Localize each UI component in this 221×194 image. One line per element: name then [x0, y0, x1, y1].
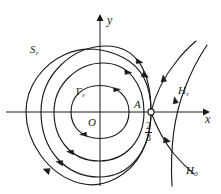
saddle-point-marker [148, 109, 154, 115]
flow-arrow-middle-bottom [67, 150, 74, 155]
fraction-denominator: 3 [145, 133, 152, 144]
y-axis-arrow-icon [97, 14, 104, 21]
flow-arrow-hyperbola-upper-outer [173, 97, 178, 104]
saddle-coordinate-fraction: 2 3 [145, 121, 152, 143]
fraction-numerator: 2 [145, 121, 152, 133]
separatrix-label: Sε [30, 44, 38, 57]
hyperbola-lower-symbol: H [186, 164, 194, 176]
x-axis-label: x [205, 113, 210, 125]
saddle-point-label: A [134, 99, 141, 110]
separatrix-symbol: S [30, 43, 36, 55]
hyperbola-upper-symbol: H [178, 84, 186, 96]
inner-orbit-label: Γε [76, 87, 85, 98]
flow-arrow-hyperbola-lower-inner [163, 137, 170, 143]
origin-label: O [88, 117, 96, 128]
y-axis-label: y [107, 14, 112, 26]
hyperbola-upper-subscript: ε [186, 90, 189, 97]
inner-orbit-subscript: ε [82, 91, 85, 98]
hyperbola-upper-label: Hε [178, 85, 189, 98]
flow-arrow-outer-bottom [56, 161, 63, 166]
flow-arrow-separatrix-bottom [43, 169, 50, 175]
hyperbola-lower-subscript: 0 [194, 170, 197, 177]
phase-portrait-figure: y x O Γε Sε A Hε H0 2 3 [0, 0, 221, 194]
separatrix-subscript: ε [36, 49, 39, 56]
hyperbola-lower-label: H0 [186, 165, 198, 178]
flow-arrow-separatrix-top [141, 71, 148, 78]
flow-arrow-outer-top [136, 58, 143, 63]
